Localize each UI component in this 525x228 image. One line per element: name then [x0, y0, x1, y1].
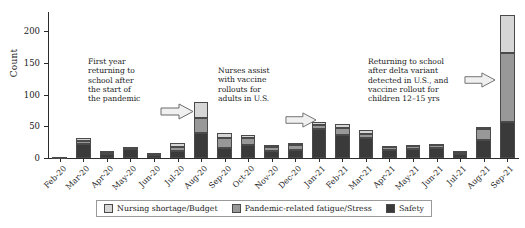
bar-segment[interactable] [335, 128, 350, 136]
bar-segment[interactable] [170, 151, 185, 158]
bar-segment[interactable] [288, 145, 303, 149]
x-tick-mark [507, 159, 508, 162]
bar-segment[interactable] [476, 129, 491, 140]
bar-column[interactable] [194, 0, 209, 158]
x-tick-mark [389, 159, 390, 162]
bar-column[interactable] [170, 0, 185, 158]
x-tick-mark [107, 159, 108, 162]
bar-segment[interactable] [241, 135, 256, 138]
legend-item[interactable]: Pandemic-related fatigue/Stress [232, 204, 372, 213]
legend-item[interactable]: Safety [386, 204, 424, 213]
bar-segment[interactable] [500, 15, 515, 53]
bar-segment[interactable] [429, 144, 444, 146]
x-tick-mark [83, 159, 84, 162]
bar-segment[interactable] [335, 135, 350, 158]
bar-segment[interactable] [217, 148, 232, 158]
y-tick-label: 200 [14, 27, 40, 35]
legend-label: Pandemic-related fatigue/Stress [245, 204, 372, 213]
bar-segment[interactable] [194, 133, 209, 158]
x-axis-line [48, 158, 519, 159]
annotation-line: vaccine rollout for [368, 85, 464, 94]
x-tick-mark [225, 159, 226, 162]
bar-segment[interactable] [453, 151, 468, 153]
bar-column[interactable] [288, 0, 303, 158]
bar-segment[interactable] [76, 138, 91, 141]
right-arrow-icon [285, 112, 317, 128]
bar-segment[interactable] [312, 129, 327, 158]
bar-segment[interactable] [170, 147, 185, 151]
annotation-delta-variant: Returning to schoolafter delta variantde… [368, 57, 464, 103]
bar-segment[interactable] [288, 143, 303, 145]
annotation-line: the start of [88, 85, 158, 94]
x-tick-mark [319, 159, 320, 162]
bar-column[interactable] [335, 0, 350, 158]
annotation-line: after delta variant [368, 66, 464, 75]
x-tick-mark [413, 159, 414, 162]
x-tick-mark [154, 159, 155, 162]
legend-label: Safety [399, 204, 424, 213]
x-tick-mark [272, 159, 273, 162]
bar-segment[interactable] [100, 151, 115, 153]
bar-segment[interactable] [264, 145, 279, 148]
bar-column[interactable] [52, 0, 67, 158]
x-tick-mark [130, 159, 131, 162]
bar-segment[interactable] [241, 138, 256, 146]
bar-segment[interactable] [359, 134, 374, 138]
bar-segment[interactable] [194, 118, 209, 133]
y-axis-line [48, 12, 49, 158]
bar-segment[interactable] [335, 124, 350, 128]
bar-segment[interactable] [264, 147, 279, 151]
legend-swatch [104, 204, 113, 213]
bar-segment[interactable] [429, 148, 444, 158]
y-tick-mark [44, 126, 48, 127]
y-tick-label: 100 [14, 91, 40, 99]
bar-column[interactable] [500, 0, 515, 158]
legend-item[interactable]: Nursing shortage/Budget [104, 204, 218, 213]
bar-segment[interactable] [288, 150, 303, 158]
x-tick-mark [201, 159, 202, 162]
annotation-first-year: First yearreturning toschool afterthe st… [88, 57, 158, 103]
bar-segment[interactable] [500, 122, 515, 158]
x-tick-mark [484, 159, 485, 162]
bar-segment[interactable] [476, 140, 491, 158]
bar-segment[interactable] [147, 153, 162, 155]
bar-segment[interactable] [194, 102, 209, 118]
bar-segment[interactable] [359, 138, 374, 158]
bar-segment[interactable] [76, 141, 91, 144]
annotation-line: Returning to school [368, 57, 464, 66]
bar-segment[interactable] [217, 138, 232, 148]
bar-segment[interactable] [359, 130, 374, 134]
annotation-line: rollouts for [218, 85, 284, 94]
stacked-bar-chart: Count 050100150200 Feb-20Mar-20Apr-20May… [0, 0, 525, 228]
bar-segment[interactable] [264, 151, 279, 158]
bar-segment[interactable] [123, 149, 138, 158]
bar-segment[interactable] [100, 154, 115, 158]
y-tick-label: 150 [14, 59, 40, 67]
x-tick-mark [178, 159, 179, 162]
bar-segment[interactable] [406, 145, 421, 147]
bar-segment[interactable] [52, 157, 67, 159]
bar-segment[interactable] [76, 144, 91, 158]
x-tick-mark [342, 159, 343, 162]
y-tick-mark [44, 63, 48, 64]
bar-segment[interactable] [241, 145, 256, 158]
bar-segment[interactable] [382, 150, 397, 158]
annotation-line: school after [88, 76, 158, 85]
bar-segment[interactable] [123, 147, 138, 149]
y-tick-mark [44, 158, 48, 159]
x-tick-mark [60, 159, 61, 162]
annotation-line: returning to [88, 66, 158, 75]
bar-segment[interactable] [500, 53, 515, 122]
bar-segment[interactable] [476, 127, 491, 130]
right-arrow-icon [160, 103, 194, 120]
bar-segment[interactable] [406, 149, 421, 158]
bar-segment[interactable] [217, 133, 232, 138]
bar-segment[interactable] [170, 143, 185, 146]
bar-column[interactable] [312, 0, 327, 158]
annotation-line: First year [88, 57, 158, 66]
x-tick-mark [366, 159, 367, 162]
bar-segment[interactable] [453, 154, 468, 158]
x-tick-mark [248, 159, 249, 162]
bar-segment[interactable] [382, 146, 397, 148]
chart-legend: Nursing shortage/BudgetPandemic-related … [96, 200, 432, 217]
